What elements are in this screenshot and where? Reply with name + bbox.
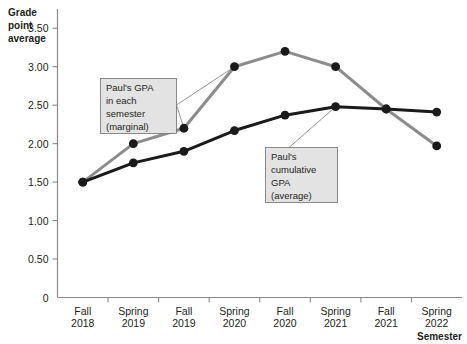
x-tick-label-year: 2020 [223,317,247,329]
y-tick-label: 0.50 [28,253,49,265]
y-tick-label: 2.50 [28,99,49,111]
callout-cumulative-line-1: cumulative [271,164,316,175]
data-point-marker [432,142,441,151]
data-point-marker [281,47,290,56]
x-tick-label-year: 2021 [324,317,348,329]
callout-cumulative-line-2: GPA [271,177,291,188]
x-tick-label-year: 2022 [425,317,449,329]
data-point-marker [331,102,340,111]
x-tick-label-year: 2021 [374,317,398,329]
leader-line [177,67,235,105]
data-point-marker [180,147,189,156]
x-tick-label-term: Spring [219,305,250,317]
gpa-line-chart: Grade point average 00.501.001.502.002.5… [0,0,467,344]
y-axis-ticks [53,28,58,259]
data-point-marker [180,124,189,133]
y-tick-label: 3.00 [28,61,49,73]
x-tick-label-term: Fall [175,305,192,317]
x-tick-label-term: Spring [320,305,351,317]
x-tick-label-term: Fall [74,305,91,317]
x-axis-title: Semester [417,331,462,342]
x-tick-label-year: 2019 [172,317,196,329]
callout-marginal: Paul's GPA in each semester (marginal) [101,79,177,134]
y-axis-title-line-2: average [8,33,46,44]
data-point-marker [129,158,138,167]
y-tick-label: 2.00 [28,138,49,150]
data-point-marker [230,126,239,135]
callout-cumulative: Paul's cumulative GPA (average) [266,148,338,203]
data-point-marker [78,178,87,187]
y-axis-title-line-0: Grade [8,7,37,18]
callout-marginal-line-3: (marginal) [106,121,149,132]
data-point-marker [129,139,138,148]
callout-cumulative-line-0: Paul's [271,151,297,162]
y-tick-label: 1.50 [28,176,49,188]
y-tick-label: 1.00 [28,215,49,227]
data-point-marker [281,111,290,120]
callout-marginal-line-2: semester [106,108,145,119]
callout-marginal-line-1: in each [106,95,137,106]
x-axis-tick-labels: Fall2018Spring2019Fall2019Spring2020Fall… [71,305,452,329]
chart-canvas: Grade point average 00.501.001.502.002.5… [0,0,467,344]
x-tick-label-year: 2020 [273,317,297,329]
x-tick-label-term: Spring [118,305,149,317]
y-tick-label: 3.50 [28,22,49,34]
data-point-marker [331,62,340,71]
data-point-marker [432,108,441,117]
x-tick-label-year: 2018 [71,317,95,329]
callout-cumulative-line-3: (average) [271,190,312,201]
x-tick-label-term: Spring [422,305,453,317]
callout-marginal-line-0: Paul's GPA [106,82,154,93]
x-tick-label-year: 2019 [122,317,146,329]
y-tick-label: 0 [43,292,49,304]
x-tick-label-term: Fall [277,305,294,317]
data-point-marker [382,105,391,114]
data-point-marker [230,62,239,71]
x-axis-ticks [108,298,411,303]
x-tick-label-term: Fall [378,305,395,317]
y-axis-tick-labels: 00.501.001.502.002.503.003.50 [28,22,49,303]
